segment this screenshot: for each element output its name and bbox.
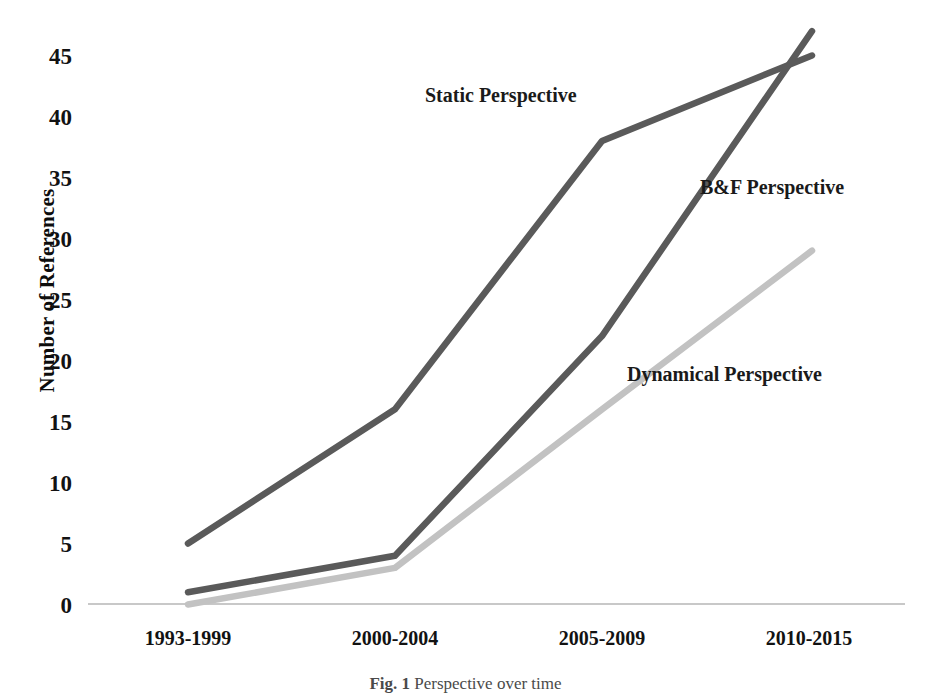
series-label-bf-perspective: B&F Perspective [700,176,844,199]
x-tick-2010-2015: 2010-2015 [709,627,909,650]
series-line-static-perspective [188,56,812,544]
figure-container: Number of References 45 40 35 30 25 20 1… [0,0,931,693]
series-label-dynamical-perspective: Dynamical Perspective [627,363,822,386]
figure-caption-text: Perspective over time [414,674,561,693]
x-tick-2000-2004: 2000-2004 [295,627,495,650]
series-line-dynamical-perspective [188,251,812,605]
series-label-static-perspective: Static Perspective [425,84,577,107]
figure-number: Fig. 1 [369,674,410,693]
x-tick-2005-2009: 2005-2009 [502,627,702,650]
x-tick-1993-1999: 1993-1999 [88,627,288,650]
series-line-bf-perspective [188,31,812,592]
figure-caption: Fig. 1 Perspective over time [0,674,931,693]
